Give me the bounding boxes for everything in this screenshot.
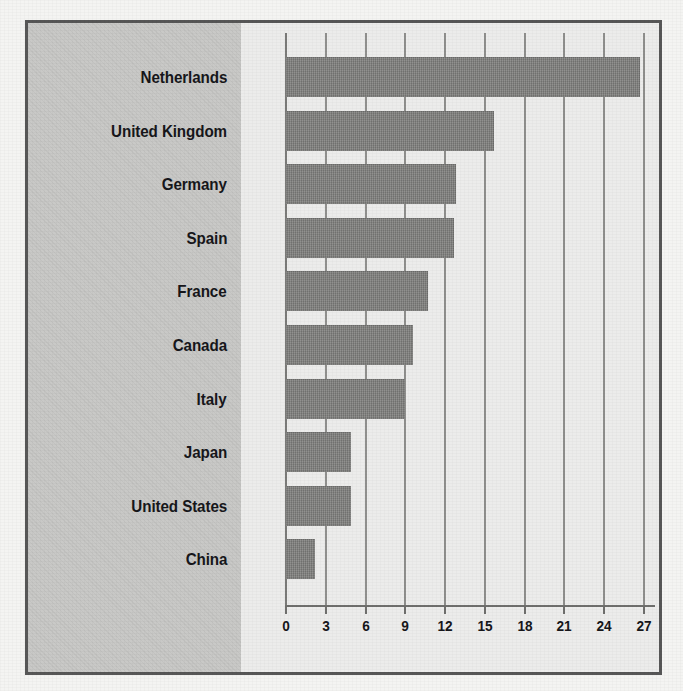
x-tick-label-3: 3 [322,618,330,634]
category-label-united-kingdom: United Kingdom [111,111,227,151]
bar-china[interactable] [286,539,315,579]
x-tick-label-0: 0 [282,618,290,634]
bar-united-states[interactable] [286,486,351,526]
gridline-18 [524,33,526,605]
chart-frame: NetherlandsUnited KingdomGermanySpainFra… [25,20,662,675]
chart-page: NetherlandsUnited KingdomGermanySpainFra… [0,0,683,691]
category-label-spain: Spain [186,218,227,258]
category-label-italy: Italy [197,379,227,419]
gridline-21 [563,33,565,605]
x-tick-label-21: 21 [557,618,572,634]
bar-japan[interactable] [286,432,351,472]
x-axis-line [285,605,655,607]
category-label-france: France [178,271,227,311]
category-label-canada: Canada [173,325,227,365]
bar-canada[interactable] [286,325,413,365]
category-label-netherlands: Netherlands [140,57,227,97]
bar-united-kingdom[interactable] [286,111,494,151]
x-tick-label-24: 24 [597,618,612,634]
gridline-24 [603,33,605,605]
bar-spain[interactable] [286,218,454,258]
plot-area: 0369121518212427 [241,23,659,672]
category-label-panel: NetherlandsUnited KingdomGermanySpainFra… [28,23,241,672]
x-tick-label-9: 9 [402,618,410,634]
bar-netherlands[interactable] [286,57,640,97]
bar-italy[interactable] [286,379,405,419]
category-label-japan: Japan [184,432,227,472]
category-label-united-states: United States [131,486,227,526]
x-tick-label-6: 6 [362,618,370,634]
bar-france[interactable] [286,271,428,311]
category-label-china: China [185,539,227,579]
x-tick-label-27: 27 [636,618,651,634]
bar-germany[interactable] [286,164,456,204]
x-tick-label-12: 12 [438,618,453,634]
x-tick-label-18: 18 [517,618,532,634]
gridline-27 [643,33,645,605]
x-tick-label-15: 15 [477,618,492,634]
category-label-germany: Germany [162,164,227,204]
